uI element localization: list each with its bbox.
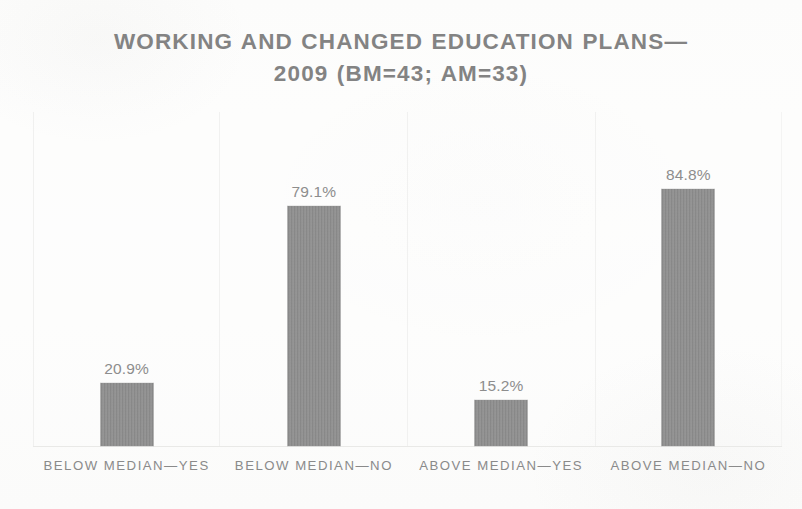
chart-title: WORKING AND CHANGED EDUCATION PLANS— 200… bbox=[0, 26, 802, 90]
bar-below-median-no[interactable] bbox=[287, 206, 340, 446]
bar-group-below-median-yes: 20.9% bbox=[33, 112, 220, 446]
category-label-below-median-no: BELOW MEDIAN—NO bbox=[220, 455, 407, 505]
bar-value-label: 20.9% bbox=[104, 360, 149, 378]
baseline-axis bbox=[33, 446, 782, 447]
bar-above-median-yes[interactable] bbox=[475, 400, 528, 446]
bar-group-above-median-yes: 15.2% bbox=[408, 112, 595, 446]
bar-value-label: 15.2% bbox=[479, 377, 524, 395]
category-label-below-median-yes: BELOW MEDIAN—YES bbox=[33, 455, 220, 505]
category-axis-labels: BELOW MEDIAN—YES BELOW MEDIAN—NO ABOVE M… bbox=[33, 455, 782, 505]
bar-value-label: 84.8% bbox=[666, 166, 711, 184]
bar-value-label: 79.1% bbox=[291, 183, 336, 201]
chart-title-line-1: WORKING AND CHANGED EDUCATION PLANS— bbox=[0, 26, 802, 58]
bar-above-median-no[interactable] bbox=[662, 189, 715, 446]
bar-group-below-median-no: 79.1% bbox=[220, 112, 407, 446]
category-label-above-median-no: ABOVE MEDIAN—NO bbox=[595, 455, 782, 505]
category-label-above-median-yes: ABOVE MEDIAN—YES bbox=[408, 455, 595, 505]
bars-layer: 20.9% 79.1% 15.2% 84.8% bbox=[33, 112, 782, 446]
bar-chart-figure: WORKING AND CHANGED EDUCATION PLANS— 200… bbox=[0, 0, 802, 509]
bar-group-above-median-no: 84.8% bbox=[595, 112, 782, 446]
chart-title-line-2: 2009 (BM=43; AM=33) bbox=[0, 58, 802, 90]
bar-below-median-yes[interactable] bbox=[100, 383, 153, 446]
